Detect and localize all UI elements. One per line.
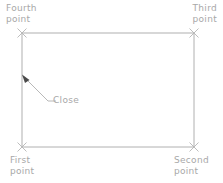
rectangle-shape: [22, 33, 194, 147]
fourth-point-label-line2: point: [6, 14, 37, 25]
first-point-label-line2: point: [10, 166, 34, 177]
second-point-label: Second point: [174, 155, 209, 177]
second-point-label-line2: point: [174, 166, 209, 177]
third-point-label: Third point: [170, 3, 217, 25]
fourth-point-label: Fourth point: [6, 3, 37, 25]
third-point-label-line1: Third: [193, 3, 217, 13]
first-point-label: First point: [10, 155, 34, 177]
first-point-label-line1: First: [10, 155, 30, 165]
diagram-canvas: Fourth point Third point First point Sec…: [0, 0, 223, 183]
third-point-label-line2: point: [170, 14, 217, 25]
second-point-label-line1: Second: [174, 155, 209, 165]
fourth-point-label-line1: Fourth: [6, 3, 37, 13]
close-leader-line: [24, 77, 56, 101]
close-label: Close: [53, 95, 79, 106]
